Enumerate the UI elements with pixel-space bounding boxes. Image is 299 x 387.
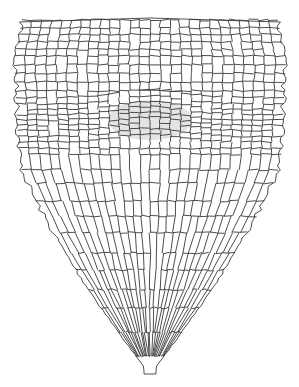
cell-wall bbox=[165, 307, 169, 309]
cell-wall bbox=[179, 20, 180, 28]
cell-wall bbox=[59, 34, 69, 35]
cell-wall bbox=[132, 308, 138, 332]
cell-wall bbox=[159, 20, 161, 28]
cell-wall bbox=[220, 183, 225, 201]
cell-wall bbox=[180, 34, 190, 36]
cell-wall bbox=[160, 49, 170, 50]
cell-wall bbox=[135, 233, 136, 254]
cell-wall bbox=[55, 183, 65, 184]
cell-wall bbox=[153, 290, 154, 308]
cell-wall bbox=[140, 183, 141, 201]
cell-wall bbox=[215, 201, 221, 216]
cell-wall bbox=[263, 120, 273, 121]
cell-wall bbox=[234, 64, 245, 65]
cell-wall bbox=[253, 90, 263, 91]
cell-wall bbox=[241, 148, 251, 150]
cell-wall bbox=[38, 183, 46, 201]
cell-wall bbox=[149, 73, 150, 82]
cell-wall bbox=[128, 332, 131, 333]
cell-wall bbox=[226, 182, 235, 183]
cell-wall bbox=[163, 252, 170, 254]
cell-wall bbox=[221, 148, 231, 149]
cell-wall bbox=[39, 28, 41, 34]
root-tip-diagram bbox=[0, 0, 299, 387]
cell-wall bbox=[118, 50, 119, 56]
cell-wall bbox=[45, 201, 53, 216]
cell-wall bbox=[225, 170, 229, 183]
cell-wall bbox=[252, 125, 262, 126]
cell-wall bbox=[222, 109, 232, 110]
cell-wall bbox=[256, 183, 263, 201]
cell-wall bbox=[57, 97, 67, 98]
cell-wall bbox=[191, 126, 201, 127]
cell-wall bbox=[211, 124, 221, 125]
cell-wall bbox=[254, 64, 265, 65]
cell-wall bbox=[66, 50, 67, 56]
cell-wall bbox=[118, 65, 120, 74]
cell-wall bbox=[70, 27, 80, 28]
cell-wall bbox=[67, 82, 68, 91]
cell-wall bbox=[38, 41, 48, 42]
cell-wall bbox=[48, 135, 58, 136]
cell-wall bbox=[268, 154, 271, 169]
cell-wall bbox=[90, 154, 92, 169]
cell-wall bbox=[130, 252, 137, 253]
cell-wall bbox=[169, 142, 170, 149]
cell-wall bbox=[37, 114, 47, 115]
cell-wall bbox=[160, 19, 170, 21]
cell-wall bbox=[170, 169, 180, 171]
cell-wall bbox=[160, 33, 170, 34]
cell-wall bbox=[120, 233, 125, 254]
cell-wall bbox=[46, 65, 56, 66]
cell-wall bbox=[253, 109, 263, 110]
cell-wall bbox=[120, 142, 121, 149]
cell-wall bbox=[190, 130, 191, 136]
cell-wall bbox=[239, 154, 241, 169]
cell-wall bbox=[149, 50, 150, 56]
cell-wall bbox=[211, 140, 221, 141]
cell-wall bbox=[98, 104, 99, 110]
cell-wall bbox=[145, 290, 147, 308]
cell-wall bbox=[180, 148, 190, 149]
cell-wall bbox=[158, 183, 161, 201]
cell-wall bbox=[56, 55, 66, 56]
cell-wall bbox=[242, 50, 244, 56]
cell-wall bbox=[119, 103, 129, 104]
cell-wall bbox=[189, 28, 190, 34]
cell-wall bbox=[171, 73, 181, 74]
cell-wall bbox=[101, 170, 103, 183]
cell-wall bbox=[59, 154, 61, 169]
cell-wall bbox=[198, 270, 208, 290]
cell-wall bbox=[191, 290, 201, 308]
cell-wall bbox=[220, 27, 230, 28]
cell-wall bbox=[188, 216, 192, 233]
cell-wall bbox=[119, 42, 120, 50]
cell-wall bbox=[251, 125, 252, 130]
cell-wall bbox=[70, 34, 80, 35]
cell-wall bbox=[59, 148, 69, 149]
cell-wall bbox=[263, 104, 273, 105]
cell-wall bbox=[191, 101, 201, 102]
cell-wall bbox=[111, 290, 120, 308]
cell-wall bbox=[222, 113, 232, 114]
cell-wall bbox=[140, 81, 150, 82]
cell-wall bbox=[46, 183, 53, 201]
cell-wall bbox=[224, 201, 230, 216]
cell-wall bbox=[72, 201, 76, 216]
cell-wall bbox=[100, 155, 110, 156]
cell-wall bbox=[150, 201, 159, 202]
cell-wall bbox=[150, 49, 160, 50]
cell-wall bbox=[201, 41, 211, 42]
cell-wall bbox=[99, 120, 100, 125]
cell-wall bbox=[181, 91, 182, 98]
cell-wall bbox=[36, 55, 46, 56]
cell-wall bbox=[244, 65, 245, 74]
cell-wall bbox=[249, 154, 252, 169]
cell-wall bbox=[99, 134, 109, 135]
cell-wall bbox=[254, 72, 264, 73]
cell-wall bbox=[147, 355, 148, 356]
cell-wall bbox=[150, 106, 160, 107]
cell-wall bbox=[170, 28, 171, 34]
cell-wall bbox=[191, 90, 201, 91]
cell-wall bbox=[274, 73, 275, 82]
